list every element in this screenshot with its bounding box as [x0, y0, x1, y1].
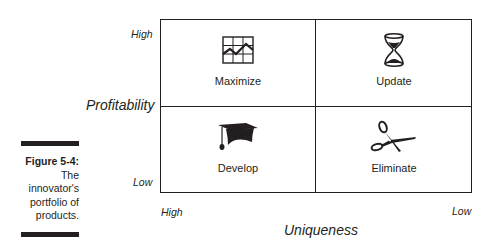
caption-line: portfolio of [10, 196, 79, 210]
x-axis-title: Uniqueness [284, 222, 358, 238]
quadrant-label: Update [376, 75, 411, 87]
caption-line: innovator's [10, 182, 79, 196]
figure-number: Figure 5-4: [10, 155, 79, 169]
quadrant-label: Maximize [215, 75, 261, 87]
quadrant-develop: Develop [160, 106, 316, 193]
quadrant-label: Develop [218, 162, 258, 174]
caption-line: The [10, 169, 79, 183]
y-axis-high-label: High [131, 28, 153, 40]
quadrant-update: Update [316, 19, 472, 106]
hourglass-icon [383, 35, 405, 65]
line-chart-icon [222, 35, 254, 65]
y-axis-low-label: Low [133, 176, 152, 188]
x-axis-low-label: Low [452, 205, 471, 217]
y-axis-title: Profitability [86, 97, 154, 113]
caption-top-bar [21, 141, 79, 146]
quadrant-maximize: Maximize [160, 19, 316, 106]
caption-line: products. [10, 209, 79, 223]
quadrant-label: Eliminate [371, 162, 416, 174]
quadrant-eliminate: Eliminate [316, 106, 472, 193]
graduation-cap-icon [216, 122, 260, 152]
figure-caption: Figure 5-4: The innovator's portfolio of… [10, 155, 79, 223]
x-axis-high-label: High [161, 206, 183, 218]
caption-bottom-bar [21, 232, 79, 237]
scissors-icon [370, 122, 418, 152]
